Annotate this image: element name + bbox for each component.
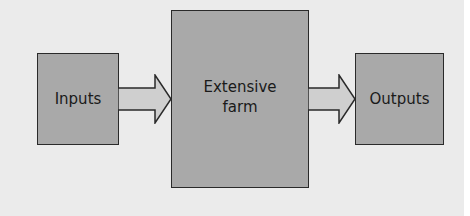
extensive-farm-box: Extensive farm (171, 10, 309, 188)
arrow-farm-to-outputs-icon (308, 74, 356, 124)
farm-label-line1: Extensive (203, 77, 276, 97)
inputs-label: Inputs (55, 89, 102, 109)
farm-label-line2: farm (203, 97, 276, 117)
arrow-inputs-to-farm-icon (118, 74, 172, 124)
outputs-label: Outputs (370, 89, 430, 109)
inputs-box: Inputs (37, 53, 119, 145)
outputs-box: Outputs (355, 53, 444, 145)
